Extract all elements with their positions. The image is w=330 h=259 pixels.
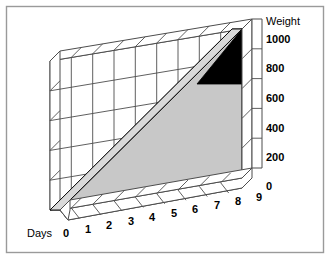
x-tick-2: 2 xyxy=(106,219,112,231)
y-tick-600: 600 xyxy=(266,92,284,104)
x-axis-title: Days xyxy=(27,227,53,239)
x-tick-8: 8 xyxy=(235,195,241,207)
y-axis-tick-labels: 1000 800 600 400 200 0 xyxy=(266,33,290,192)
x-tick-0: 0 xyxy=(63,227,69,239)
chart-figure: 1000 800 600 400 200 0 Weight 0 1 2 3 4 … xyxy=(0,0,330,259)
x-tick-1: 1 xyxy=(85,223,91,235)
x-tick-7: 7 xyxy=(214,199,220,211)
y-tick-200: 200 xyxy=(266,151,284,163)
right-wall-face xyxy=(242,19,252,178)
y-axis-title: Weight xyxy=(266,15,300,27)
y-tick-0: 0 xyxy=(266,180,272,192)
x-tick-5: 5 xyxy=(171,207,177,219)
y-tick-1000: 1000 xyxy=(266,33,290,45)
y-tick-800: 800 xyxy=(266,62,284,74)
wall-left-depth xyxy=(50,51,60,210)
right-wall-axis xyxy=(242,19,262,178)
x-tick-4: 4 xyxy=(149,211,156,223)
chart-canvas: 1000 800 600 400 200 0 Weight 0 1 2 3 4 … xyxy=(0,0,330,259)
right-wall-side xyxy=(252,19,262,168)
x-tick-9: 9 xyxy=(256,191,262,203)
x-tick-6: 6 xyxy=(192,203,198,215)
x-tick-3: 3 xyxy=(128,215,134,227)
y-tick-400: 400 xyxy=(266,122,284,134)
